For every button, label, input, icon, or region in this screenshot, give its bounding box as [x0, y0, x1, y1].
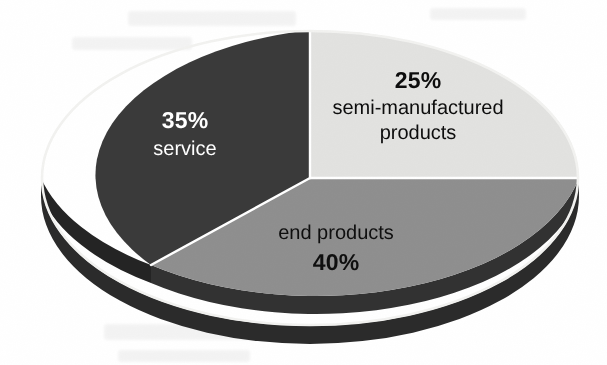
pie-chart-figure: 25% semi-manufactured products end produ… [0, 0, 607, 365]
pie-chart-canvas [0, 0, 607, 365]
paper-grain-overlay [0, 0, 607, 365]
